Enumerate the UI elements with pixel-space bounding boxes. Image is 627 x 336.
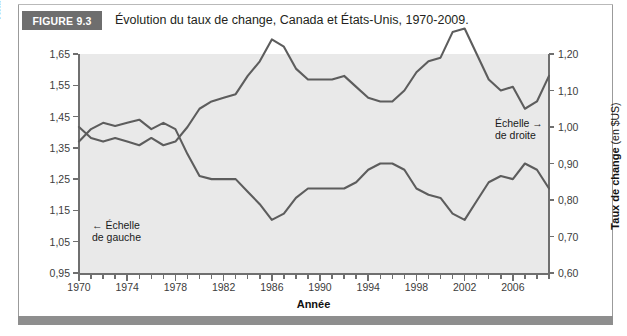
annotation-left-scale-line2: de gauche: [92, 231, 141, 243]
series-line-left-scale: [79, 120, 549, 220]
series-layer: [0, 0, 627, 336]
annotation-right-scale-line2: de droite: [495, 129, 543, 141]
annotation-left-scale: ← Échelle de gauche: [92, 219, 141, 244]
figure-container: FIGURE 9.3 Évolution du taux de change, …: [0, 0, 627, 336]
annotation-left-scale-line1: ← Échelle: [92, 219, 141, 231]
annotation-right-scale: Échelle → de droite: [495, 117, 543, 142]
annotation-right-scale-line1: Échelle →: [495, 117, 543, 129]
